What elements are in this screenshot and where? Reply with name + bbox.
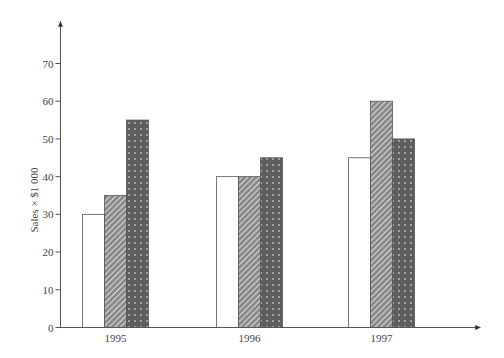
y-tick-label: 30 [43, 208, 55, 220]
bar-hatched-1997 [371, 101, 393, 327]
bars-group [83, 101, 415, 327]
y-tick-label: 0 [48, 322, 54, 334]
bar-dotted-1996 [261, 158, 283, 328]
y-axis-label: Sales × $1 000 [28, 167, 40, 233]
y-tick-label: 10 [43, 284, 55, 296]
bar-hatched-1996 [239, 177, 261, 328]
bar-hatched-1995 [105, 196, 127, 328]
y-tick-label: 60 [43, 95, 55, 107]
bar-chart: 010203040506070 199519961997 Sales × $1 … [0, 0, 504, 358]
x-tick-label: 1995 [105, 332, 128, 344]
bar-plain-1995 [83, 214, 105, 327]
x-tick-label: 1996 [239, 332, 262, 344]
bar-plain-1996 [217, 177, 239, 328]
y-tick-label: 50 [43, 133, 55, 145]
x-tick-labels: 199519961997 [105, 332, 394, 344]
bar-plain-1997 [349, 158, 371, 328]
x-tick-label: 1997 [371, 332, 394, 344]
y-tick-label: 40 [43, 171, 55, 183]
y-tick-label: 70 [43, 58, 55, 70]
y-ticks: 010203040506070 [43, 58, 61, 334]
y-tick-label: 20 [43, 246, 55, 258]
bar-dotted-1997 [393, 139, 415, 328]
bar-dotted-1995 [127, 120, 149, 327]
